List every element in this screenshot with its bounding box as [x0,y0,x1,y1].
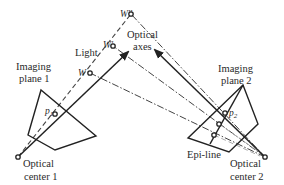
label-optical-center-1b: center 1 [24,171,58,182]
imaging-plane-1 [28,90,96,150]
label-p1: p1 [44,106,53,118]
label-p2: p2 [228,108,238,120]
light-projection-1 [219,124,262,154]
label-light: Light [75,47,98,58]
epi-point-2 [212,133,216,137]
optical-center-1-marker [16,155,20,159]
label-w-prime: W' [103,40,114,50]
label-optical-center-1a: Optical [23,158,54,169]
optical-center-2-marker [263,155,267,159]
label-imaging-plane-1b: plane 1 [19,73,50,84]
label-imaging-plane-2b: plane 2 [221,75,252,86]
label-imaging-plane-1a: Imaging [16,61,52,72]
label-optical-axes-2: axes [133,41,152,52]
epipolar-geometry-diagram: W'' W' W Light Optical axes Imaging plan… [0,0,284,185]
imaging-plane-2 [188,85,258,152]
epi-point-1 [217,122,221,126]
point-p2-marker [223,111,227,115]
point-w-marker [88,71,92,75]
label-epi-line: Epi-line [187,149,221,160]
label-w-double-prime: W'' [120,9,133,19]
label-optical-axes-1: Optical [127,29,158,40]
label-imaging-plane-2a: Imaging [218,63,254,74]
label-optical-center-2b: center 2 [230,171,264,182]
label-w: W [78,68,87,78]
label-optical-center-2a: Optical [230,158,261,169]
light-ray-1 [18,14,131,157]
point-p1-marker [53,112,57,116]
